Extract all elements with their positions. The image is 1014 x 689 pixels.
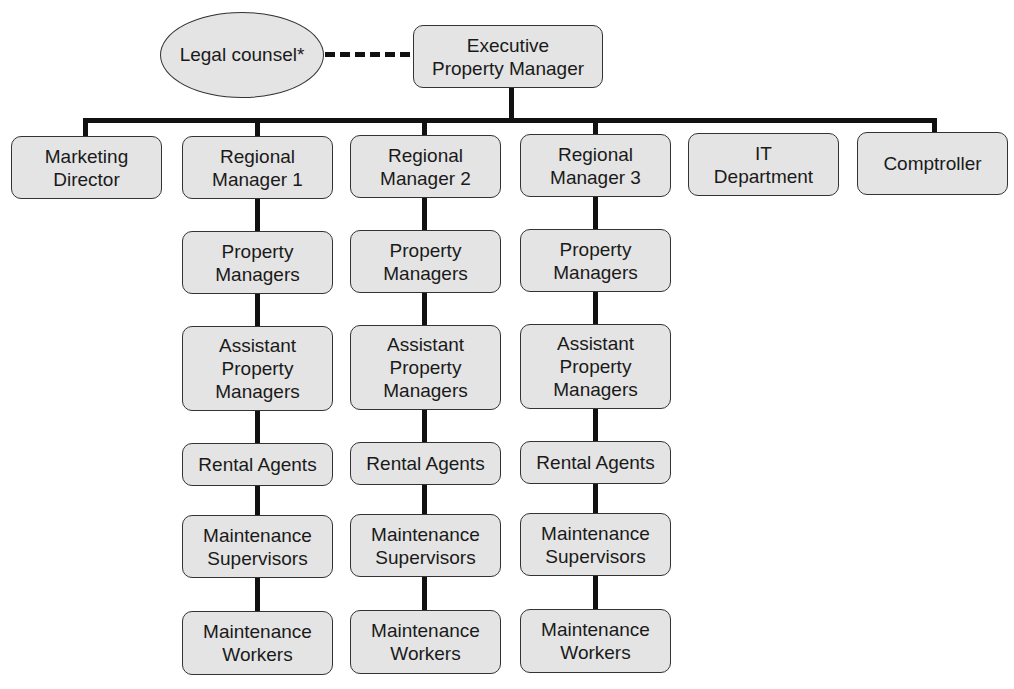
assistant-property-managers-node-1: Assistant Property Managers — [182, 326, 333, 411]
property-managers-node-1: Property Managers — [182, 231, 333, 294]
maintenance-workers-node-2: Maintenance Workers — [350, 610, 501, 674]
property-managers-node-2: Property Managers — [350, 230, 501, 293]
regional-manager-2-node: Regional Manager 2 — [350, 135, 501, 198]
connector-marketing — [83, 118, 88, 136]
legal-counsel-node: Legal counsel* — [160, 12, 324, 98]
dotted-connector-legal — [325, 52, 413, 57]
executive-property-manager-node: Executive Property Manager — [413, 25, 603, 88]
property-managers-node-3: Property Managers — [520, 229, 671, 292]
comptroller-node: Comptroller — [857, 132, 1008, 195]
rental-agents-node-3: Rental Agents — [520, 441, 671, 484]
connector-rm1 — [255, 118, 260, 136]
maintenance-workers-node-3: Maintenance Workers — [520, 609, 671, 673]
marketing-director-node: Marketing Director — [11, 136, 162, 199]
maintenance-supervisors-node-2: Maintenance Supervisors — [350, 514, 501, 577]
maintenance-workers-node-1: Maintenance Workers — [182, 611, 333, 675]
it-department-node: IT Department — [688, 133, 839, 196]
org-chart: Legal counsel* Executive Property Manage… — [0, 0, 1014, 689]
maintenance-supervisors-node-3: Maintenance Supervisors — [520, 513, 671, 576]
assistant-property-managers-node-2: Assistant Property Managers — [350, 325, 501, 410]
assistant-property-managers-node-3: Assistant Property Managers — [520, 324, 671, 409]
maintenance-supervisors-node-1: Maintenance Supervisors — [182, 515, 333, 578]
regional-manager-3-node: Regional Manager 3 — [520, 134, 671, 197]
rental-agents-node-1: Rental Agents — [182, 443, 333, 486]
connector-rm2 — [422, 118, 427, 136]
connector-horizontal-bar — [83, 118, 937, 123]
regional-manager-1-node: Regional Manager 1 — [182, 136, 333, 199]
connector-root-down — [509, 87, 514, 122]
rental-agents-node-2: Rental Agents — [350, 442, 501, 485]
